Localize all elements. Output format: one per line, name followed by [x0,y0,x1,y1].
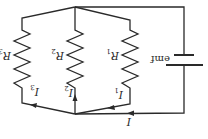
current-label-I1: I1 [114,86,124,101]
current-label-I3: I3 [30,83,40,98]
circuit-diagram: emf I R3 I3 R2 I2 R1 I1 [0,0,208,139]
resistor-label-R1: R1 [106,47,120,62]
resistor-label-R3: R3 [0,47,12,62]
branch-R3-wire [14,7,75,114]
battery-icon [166,55,203,65]
top-wire [75,7,184,55]
current-label-I2: I2 [64,84,74,99]
branch-R1-wire [75,7,138,114]
current-label-I: I [126,115,132,128]
emf-label: emf [150,54,170,65]
resistor-label-R2: R2 [51,47,65,62]
